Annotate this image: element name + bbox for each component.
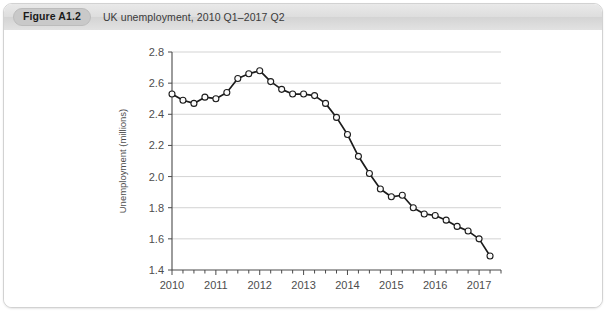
- data-point-marker: [235, 75, 241, 81]
- x-tick-label: 2013: [291, 279, 315, 291]
- x-tick-label: 2014: [335, 279, 359, 291]
- data-point-marker: [213, 96, 219, 102]
- data-point-marker: [388, 194, 394, 200]
- data-point-marker: [301, 91, 307, 97]
- y-tick-label: 2.6: [149, 77, 164, 89]
- data-point-marker: [487, 253, 493, 259]
- y-tick-label: 2.2: [149, 139, 164, 151]
- y-tick-label: 2.8: [149, 46, 164, 58]
- x-tick-label: 2017: [467, 279, 491, 291]
- data-point-marker: [279, 86, 285, 92]
- data-point-marker: [246, 71, 252, 77]
- y-tick-label: 1.8: [149, 202, 164, 214]
- data-point-marker: [443, 217, 449, 223]
- x-axis-tick-labels: 20102011201220132014201520162017: [160, 279, 492, 291]
- unemployment-line-chart: 1.41.61.82.02.22.42.62.8 201020112012201…: [4, 30, 603, 308]
- data-point-marker: [355, 153, 361, 159]
- data-point-marker: [454, 223, 460, 229]
- figure-caption: UK unemployment, 2010 Q1–2017 Q2: [103, 11, 285, 23]
- x-tick-label: 2011: [204, 279, 228, 291]
- data-point-marker: [432, 213, 438, 219]
- x-tick-label: 2010: [160, 279, 184, 291]
- data-point-marker: [290, 91, 296, 97]
- x-tick-label: 2016: [423, 279, 447, 291]
- unemployment-series-line: [172, 71, 490, 256]
- unemployment-series-markers: [169, 68, 493, 259]
- y-axis-ticks: [168, 52, 172, 270]
- data-point-marker: [268, 79, 274, 85]
- data-point-marker: [334, 114, 340, 120]
- data-point-marker: [410, 205, 416, 211]
- data-point-marker: [366, 170, 372, 176]
- data-point-marker: [399, 192, 405, 198]
- y-tick-label: 2.0: [149, 171, 164, 183]
- y-tick-label: 2.4: [149, 108, 164, 120]
- y-axis-tick-labels: 1.41.61.82.02.22.42.62.8: [149, 46, 164, 276]
- data-point-marker: [169, 91, 175, 97]
- data-point-marker: [312, 93, 318, 99]
- data-point-marker: [257, 68, 263, 74]
- data-point-marker: [344, 132, 350, 138]
- figure-body: 1.41.61.82.02.22.42.62.8 201020112012201…: [4, 30, 602, 308]
- x-axis-ticks: [172, 270, 501, 275]
- figure-panel: Figure A1.2 UK unemployment, 2010 Q1–201…: [3, 3, 603, 308]
- data-point-marker: [323, 100, 329, 106]
- data-point-marker: [202, 94, 208, 100]
- figure-number-badge: Figure A1.2: [13, 8, 91, 26]
- figure-header: Figure A1.2 UK unemployment, 2010 Q1–201…: [4, 4, 602, 31]
- data-point-marker: [465, 228, 471, 234]
- y-tick-label: 1.6: [149, 233, 164, 245]
- x-tick-label: 2012: [247, 279, 271, 291]
- data-point-marker: [476, 236, 482, 242]
- data-point-marker: [421, 211, 427, 217]
- y-axis-title: Unemployment (millions): [117, 109, 128, 214]
- data-point-marker: [224, 89, 230, 95]
- data-point-marker: [180, 97, 186, 103]
- data-point-marker: [377, 186, 383, 192]
- axes-group: [172, 52, 501, 270]
- x-tick-label: 2015: [379, 279, 403, 291]
- y-tick-label: 1.4: [149, 264, 164, 276]
- data-point-marker: [191, 100, 197, 106]
- gridlines-group: [172, 52, 501, 239]
